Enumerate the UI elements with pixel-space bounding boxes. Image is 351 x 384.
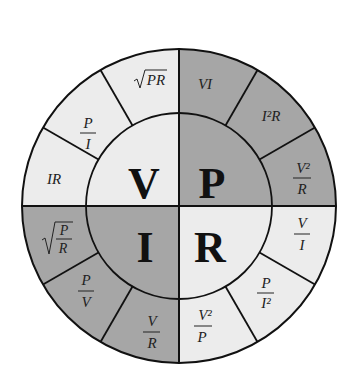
svg-text:R: R xyxy=(58,241,68,256)
svg-text:R: R xyxy=(146,335,156,351)
formula-vi: VI xyxy=(198,76,213,92)
ohms-law-wheel: V P R I IR P I PR VI I²R V² R V I P I² V… xyxy=(0,0,351,384)
svg-text:I: I xyxy=(299,237,306,253)
symbol-current: I xyxy=(136,223,153,272)
svg-text:P: P xyxy=(82,115,92,131)
formula-i2r: I²R xyxy=(261,108,281,124)
svg-text:P: P xyxy=(196,329,206,345)
symbol-voltage: V xyxy=(128,159,160,208)
svg-text:P: P xyxy=(59,223,69,238)
svg-text:V²: V² xyxy=(198,307,212,323)
svg-text:R: R xyxy=(296,181,306,197)
svg-text:I²: I² xyxy=(260,295,271,311)
symbol-resistance: R xyxy=(194,223,227,272)
svg-text:V²: V² xyxy=(296,160,310,176)
svg-text:P: P xyxy=(80,272,90,288)
formula-ir: IR xyxy=(46,171,61,187)
svg-text:I: I xyxy=(85,136,92,152)
symbol-power: P xyxy=(199,159,226,208)
svg-text:P: P xyxy=(260,275,270,291)
svg-text:PR: PR xyxy=(146,72,165,88)
